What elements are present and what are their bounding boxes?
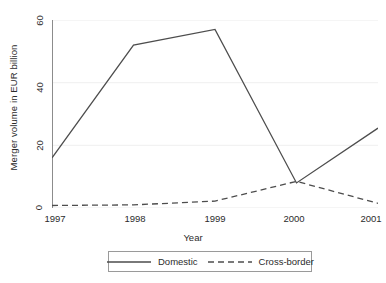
- legend-item-domestic[interactable]: Domestic: [106, 256, 198, 267]
- legend-swatch-solid: [106, 258, 152, 266]
- series-line-domestic: [52, 29, 378, 183]
- x-tick-label-2001: 2001: [348, 213, 386, 224]
- chart-figure: Merger volume in EUR billion 60 40 20 0 …: [0, 0, 386, 283]
- legend-swatch-dashed: [207, 258, 253, 266]
- plot-area: [52, 20, 378, 208]
- tick-marks: [52, 20, 378, 208]
- x-tick-label-1997: 1997: [32, 213, 78, 224]
- x-axis-label: Year: [0, 232, 386, 243]
- gridlines: [52, 20, 378, 208]
- legend-label-cross-border: Cross-border: [259, 256, 314, 267]
- x-tick-label-1998: 1998: [112, 213, 158, 224]
- y-axis-label-text: Merger volume in EUR billion: [9, 45, 20, 171]
- legend-label-domestic: Domestic: [158, 256, 198, 267]
- x-tick-label-1999: 1999: [192, 213, 238, 224]
- data-series: [52, 29, 378, 205]
- x-tick-label-2000: 2000: [271, 213, 317, 224]
- y-axis-label: Merger volume in EUR billion: [4, 0, 24, 215]
- axis-lines: [52, 20, 378, 208]
- y-tick-label-0: 0: [26, 201, 52, 213]
- legend-item-cross-border[interactable]: Cross-border: [207, 256, 314, 267]
- y-tick-label-40: 40: [26, 81, 52, 93]
- series-line-cross-border: [52, 181, 378, 205]
- y-tick-label-20: 20: [26, 139, 52, 151]
- y-tick-label-60: 60: [26, 14, 52, 26]
- chart-legend: Domestic Cross-border: [108, 251, 312, 272]
